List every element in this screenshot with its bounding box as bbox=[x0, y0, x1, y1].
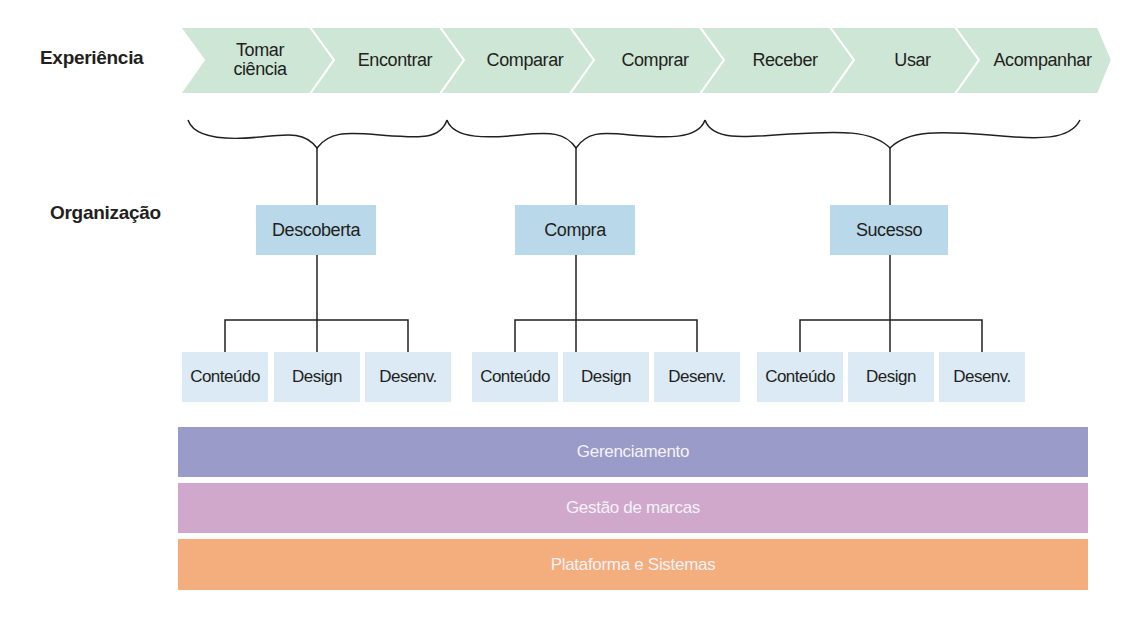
sucesso-conteudo: Conteúdo bbox=[757, 352, 843, 402]
group-sucesso: Sucesso bbox=[830, 205, 948, 255]
grouping-braces bbox=[188, 120, 1080, 148]
layer-gestao-de-marcas: Gestão de marcas bbox=[178, 483, 1088, 533]
brace-descoberta bbox=[188, 120, 447, 148]
step-usar: Usar bbox=[850, 26, 975, 94]
step-comparar: Comparar bbox=[460, 26, 590, 94]
step-tomar-ciencia: Tomar ciência bbox=[200, 26, 320, 94]
step-receber: Receber bbox=[720, 26, 850, 94]
step-comprar: Comprar bbox=[590, 26, 720, 94]
sucesso-design: Design bbox=[848, 352, 934, 402]
step-acompanhar: Acompanhar bbox=[975, 26, 1110, 94]
compra-conteudo: Conteúdo bbox=[472, 352, 558, 402]
layer-plataforma-e-sistemas: Plataforma e Sistemas bbox=[178, 539, 1088, 590]
compra-design: Design bbox=[563, 352, 649, 402]
descoberta-conteudo: Conteúdo bbox=[182, 352, 268, 402]
brace-compra bbox=[447, 120, 705, 148]
step-encontrar: Encontrar bbox=[330, 26, 460, 94]
compra-desenv: Desenv. bbox=[654, 352, 740, 402]
group-descoberta: Descoberta bbox=[256, 205, 376, 255]
group-compra: Compra bbox=[515, 205, 635, 255]
brace-sucesso bbox=[705, 120, 1080, 148]
descoberta-design: Design bbox=[274, 352, 360, 402]
layer-gerenciamento: Gerenciamento bbox=[178, 427, 1088, 477]
sucesso-desenv: Desenv. bbox=[939, 352, 1025, 402]
descoberta-desenv: Desenv. bbox=[365, 352, 451, 402]
